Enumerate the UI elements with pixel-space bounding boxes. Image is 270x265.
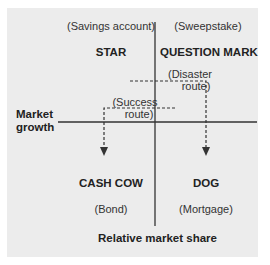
star-example: (Savings account) bbox=[66, 20, 156, 32]
y-axis-label: Market growth bbox=[16, 108, 54, 134]
disaster-route-label: (Disaster route) bbox=[160, 68, 220, 92]
disaster-route-line2: route) bbox=[160, 80, 220, 92]
cash-cow-label: CASH COW bbox=[66, 177, 156, 189]
success-route-arrow-icon bbox=[100, 147, 108, 156]
y-axis-label-line1: Market bbox=[16, 108, 54, 121]
dog-example: (Mortgage) bbox=[160, 203, 252, 215]
disaster-route-arrow-icon bbox=[202, 147, 210, 156]
question-mark-label: QUESTION MARK bbox=[160, 46, 256, 58]
dog-label: DOG bbox=[160, 177, 252, 189]
question-mark-example: (Sweepstake) bbox=[160, 20, 256, 32]
success-route-line2: route) bbox=[110, 108, 160, 120]
disaster-route-line1: (Disaster bbox=[160, 68, 220, 80]
y-axis-label-line2: growth bbox=[16, 121, 54, 134]
success-route-line1: (Success bbox=[110, 96, 160, 108]
cash-cow-example: (Bond) bbox=[66, 203, 156, 215]
success-route-label: (Success route) bbox=[110, 96, 160, 120]
x-axis-label: Relative market share bbox=[90, 232, 225, 244]
star-label: STAR bbox=[66, 46, 156, 58]
